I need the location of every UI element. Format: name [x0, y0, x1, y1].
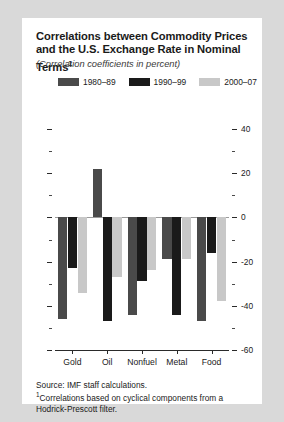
chart-card: Correlations between Commodity Prices an…: [22, 18, 262, 404]
bar-gold-2000-07: [78, 217, 87, 292]
y-tick-left-20: [47, 173, 52, 174]
chart-legend: 1980–89 1990–99 2000–07: [58, 77, 257, 87]
y-tick-left--20: [47, 262, 52, 263]
x-tick-gold: [72, 350, 73, 354]
x-tick-nonfuel: [142, 350, 143, 354]
y-tick-right-0: [232, 217, 237, 218]
bar-metal-1980-89: [162, 217, 171, 259]
y-tick-right--20: [232, 262, 237, 263]
y-axis-label-0: 0: [241, 212, 246, 222]
chart-plot-area: 40200-20-40-60: [55, 129, 229, 350]
y-tick-left-10: [49, 195, 52, 196]
bar-nonfuel-2000-07: [147, 217, 156, 270]
note-source: Source: IMF staff calculations.: [36, 380, 254, 390]
legend-label-1980-89: 1980–89: [83, 77, 116, 87]
y-tick-right--50: [232, 328, 235, 329]
y-tick-left-30: [49, 151, 52, 152]
y-tick-right--40: [232, 306, 237, 307]
y-axis-label--40: -40: [241, 301, 253, 311]
y-tick-left--10: [49, 240, 52, 241]
bar-oil-2000-07: [112, 217, 121, 277]
bar-oil-1980-89: [93, 169, 102, 218]
note-footnote: 1Correlations based on cyclical componen…: [36, 390, 254, 414]
legend-swatch-1980-89: [58, 78, 79, 86]
y-axis-label-20: 20: [241, 168, 250, 178]
x-axis-label-gold: Gold: [63, 357, 81, 367]
y-axis-label--20: -20: [241, 257, 253, 267]
y-tick-right-20: [232, 173, 237, 174]
legend-label-2000-07: 2000–07: [224, 77, 257, 87]
y-tick-left--30: [49, 284, 52, 285]
y-tick-left-0: [47, 217, 52, 218]
chart-subtitle: (Correlation coefficients in percent): [36, 59, 252, 70]
x-axis-label-food: Food: [202, 357, 222, 367]
bar-nonfuel-1990-99: [137, 217, 146, 281]
bar-gold-1980-89: [58, 217, 67, 319]
y-tick-left--50: [49, 328, 52, 329]
bar-food-1990-99: [207, 217, 216, 252]
x-tick-food: [212, 350, 213, 354]
bar-food-1980-89: [197, 217, 206, 321]
y-axis-label-40: 40: [241, 124, 250, 134]
legend-item-1990-99: 1990–99: [129, 77, 187, 87]
bar-food-2000-07: [217, 217, 226, 301]
x-tick-metal: [177, 350, 178, 354]
y-tick-right--30: [232, 284, 235, 285]
y-tick-right-10: [232, 195, 235, 196]
bar-metal-1990-99: [172, 217, 181, 314]
y-tick-left-40: [47, 129, 52, 130]
x-axis-label-metal: Metal: [166, 357, 187, 367]
bar-nonfuel-1980-89: [128, 217, 137, 314]
legend-item-1980-89: 1980–89: [58, 77, 116, 87]
bar-gold-1990-99: [68, 217, 77, 268]
x-axis-label-nonfuel: Nonfuel: [127, 357, 157, 367]
y-tick-left--40: [47, 306, 52, 307]
x-axis-label-oil: Oil: [102, 357, 113, 367]
legend-item-2000-07: 2000–07: [199, 77, 257, 87]
y-tick-left--60: [47, 350, 52, 351]
bar-oil-1990-99: [103, 217, 112, 321]
legend-swatch-1990-99: [129, 78, 150, 86]
y-axis-label--60: -60: [241, 345, 253, 355]
x-tick-oil: [107, 350, 108, 354]
y-tick-right--10: [232, 240, 235, 241]
y-tick-right-40: [232, 129, 237, 130]
chart-notes: Source: IMF staff calculations. 1Correla…: [36, 380, 254, 414]
legend-label-1990-99: 1990–99: [154, 77, 187, 87]
y-tick-right--60: [232, 350, 237, 351]
y-tick-right-30: [232, 151, 235, 152]
note-footnote-text: Correlations based on cyclical component…: [36, 393, 223, 413]
bar-metal-2000-07: [182, 217, 191, 259]
legend-swatch-2000-07: [199, 78, 220, 86]
